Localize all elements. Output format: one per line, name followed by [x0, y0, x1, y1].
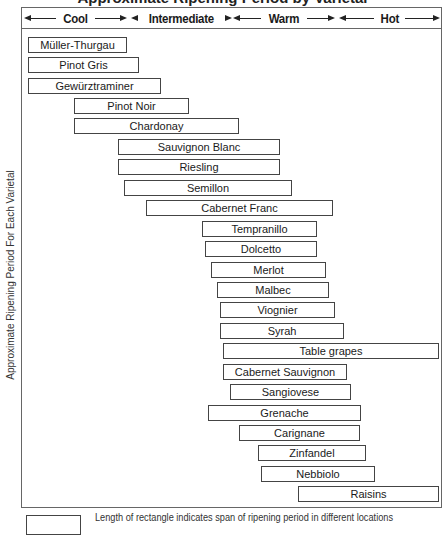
arrow-right-icon — [328, 15, 335, 21]
zone-line — [405, 18, 433, 19]
varietal-bar: Riesling — [118, 159, 280, 175]
chart-title: Approximate Ripening Period by Varietal — [0, 0, 445, 6]
zone-cool: Cool — [24, 8, 127, 28]
varietal-bar: Pinot Gris — [28, 57, 139, 73]
varietal-bar: Pinot Noir — [74, 98, 189, 114]
varietal-bar: Sauvignon Blanc — [118, 139, 280, 155]
legend-text: Length of rectangle indicates span of ri… — [95, 512, 393, 523]
zone-label: Intermediate — [145, 11, 219, 26]
varietal-bar: Table grapes — [223, 343, 439, 359]
varietal-bar: Syrah — [220, 323, 344, 339]
zone-label: Warm — [265, 11, 304, 26]
varietal-bar: Cabernet Sauvignon — [223, 364, 347, 380]
zone-warm: Warm — [233, 8, 335, 28]
varietal-bar: Cabernet Franc — [146, 200, 333, 216]
zone-line — [346, 18, 374, 19]
arrow-right-icon — [120, 15, 127, 21]
varietal-bar: Nebbiolo — [261, 466, 375, 482]
zone-line — [31, 18, 56, 19]
varietal-bar: Gewürztraminer — [28, 78, 161, 94]
zone-intermediate: Intermediate — [131, 8, 229, 28]
varietal-bar: Merlot — [211, 262, 326, 278]
arrow-right-icon — [225, 15, 232, 21]
varietal-bar: Zinfandel — [258, 445, 366, 461]
varietal-bar: Dolcetto — [205, 241, 317, 257]
y-axis-label: Approximate Ripening Period For Each Var… — [5, 170, 16, 379]
varietal-bar: Müller-Thurgau — [28, 37, 127, 53]
zone-line — [240, 18, 261, 19]
varietal-bar: Sangiovese — [230, 384, 351, 400]
varietal-bar: Tempranillo — [202, 221, 317, 237]
arrow-right-icon — [433, 15, 440, 21]
varietal-bar: Raisins — [298, 486, 439, 502]
arrow-left-icon — [233, 15, 240, 21]
arrow-left-icon — [24, 15, 31, 21]
varietal-bar: Chardonay — [74, 118, 239, 134]
zone-label: Cool — [59, 11, 92, 26]
arrow-left-icon — [131, 15, 138, 21]
arrow-left-icon — [339, 15, 346, 21]
varietal-bar: Viognier — [220, 302, 335, 318]
varietal-bar: Semillon — [124, 180, 292, 196]
varietal-bar: Carignane — [239, 425, 360, 441]
zone-line — [307, 18, 328, 19]
climate-zone-header: CoolIntermediateWarmHot — [22, 8, 441, 29]
chart-area: CoolIntermediateWarmHot Müller-ThurgauPi… — [21, 7, 442, 508]
zone-hot: Hot — [339, 8, 440, 28]
zone-label: Hot — [376, 11, 403, 26]
varietal-bar: Malbec — [217, 282, 329, 298]
varietal-bar: Grenache — [208, 405, 361, 421]
legend-swatch — [26, 515, 81, 535]
zone-line — [95, 18, 120, 19]
